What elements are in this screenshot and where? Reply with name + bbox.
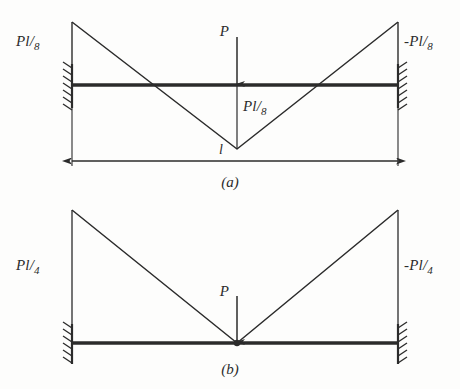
label-load-b: P (219, 283, 229, 299)
figure-bending-moment-diagrams: Pl/8 -Pl/8 Pl/8 P l (a) (0, 0, 460, 389)
label-span-a: l (219, 142, 223, 157)
load-point-b (234, 340, 240, 346)
caption-a: (a) (221, 174, 239, 191)
label-load-a: P (219, 23, 229, 39)
caption-b: (b) (221, 361, 239, 378)
paper-background (0, 0, 460, 389)
diagram-canvas: Pl/8 -Pl/8 Pl/8 P l (a) (0, 0, 460, 389)
